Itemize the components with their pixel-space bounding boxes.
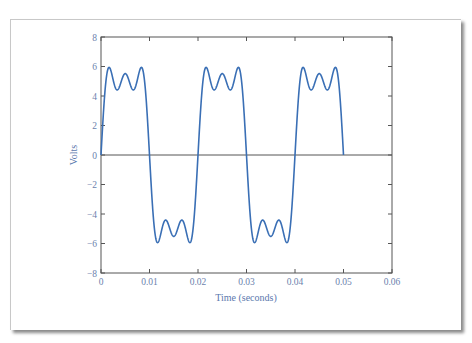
y-tick-label: −8 bbox=[87, 269, 97, 279]
y-tick-label: 2 bbox=[92, 121, 97, 131]
y-tick-label: −4 bbox=[87, 210, 97, 220]
y-tick-label: 0 bbox=[92, 151, 97, 161]
x-tick-label: 0 bbox=[99, 277, 104, 287]
y-tick-label: 6 bbox=[92, 62, 97, 72]
y-tick-label: 8 bbox=[92, 33, 97, 43]
x-tick-label: 0.06 bbox=[384, 277, 401, 287]
x-tick-label: 0.04 bbox=[287, 277, 304, 287]
x-tick-label: 0.03 bbox=[238, 277, 255, 287]
y-tick-label: 4 bbox=[92, 92, 97, 102]
tick-labels: 00.010.020.030.040.050.06−8−6−4−202468 bbox=[87, 33, 401, 288]
chart: 00.010.020.030.040.050.06−8−6−4−202468 T… bbox=[0, 0, 472, 343]
x-axis-label: Time (seconds) bbox=[215, 292, 277, 304]
y-tick-label: −6 bbox=[87, 239, 97, 249]
y-axis-label: Volts bbox=[68, 145, 79, 165]
y-tick-label: −2 bbox=[87, 180, 97, 190]
x-tick-label: 0.05 bbox=[335, 277, 352, 287]
x-tick-label: 0.02 bbox=[190, 277, 207, 287]
x-tick-label: 0.01 bbox=[141, 277, 158, 287]
